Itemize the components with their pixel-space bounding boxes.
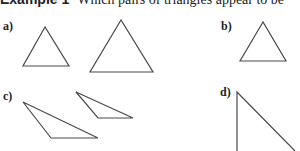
triangle-c-small bbox=[76, 92, 133, 118]
triangle-a-small bbox=[23, 27, 69, 66]
triangle-c-large bbox=[23, 102, 98, 138]
triangle-a-large bbox=[90, 20, 153, 72]
triangle-b bbox=[240, 22, 286, 61]
triangle-figures bbox=[0, 0, 300, 151]
triangle-d bbox=[237, 92, 295, 151]
